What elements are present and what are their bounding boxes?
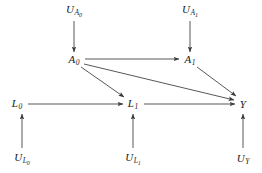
node-subscript: A0 [74, 8, 82, 17]
node-subscript: 1 [134, 102, 138, 111]
node-u-l1: UL1 [125, 152, 141, 166]
node-sub-subscript: 1 [138, 160, 141, 166]
node-u-a0: UA0 [66, 4, 82, 18]
node-subscript: L1 [134, 156, 141, 165]
node-subscript: Y [245, 157, 249, 166]
node-u-a1: UA1 [182, 4, 198, 18]
node-base-letter: U [125, 151, 133, 163]
node-base-letter: U [237, 152, 245, 164]
node-subscript: 1 [192, 58, 196, 67]
node-base-letter: U [66, 3, 74, 15]
node-base-letter: Y [240, 98, 246, 110]
edge-a0-y [84, 64, 234, 100]
node-subscript: L0 [23, 156, 30, 165]
node-subscript: 0 [18, 102, 22, 111]
node-subscript: A1 [190, 8, 198, 17]
causal-diagram-canvas: UA0UA1A0A1L0L1YUL0UL1UY [0, 0, 262, 173]
edge-a1-y [197, 67, 236, 96]
node-l0: L0 [12, 98, 22, 111]
node-sub-subscript: 1 [195, 12, 198, 18]
node-a1: A1 [184, 54, 195, 67]
edge-a0-l1 [81, 67, 124, 97]
node-base-letter: A [184, 53, 191, 65]
node-subscript: 0 [76, 58, 80, 67]
node-base-letter: A [68, 53, 75, 65]
node-sub-subscript: 0 [27, 160, 30, 166]
node-base-letter: U [14, 151, 22, 163]
node-base-letter: L [12, 97, 18, 109]
node-y: Y [240, 99, 246, 110]
edges-group [22, 21, 243, 148]
node-base-letter: U [182, 3, 190, 15]
node-a0: A0 [68, 54, 79, 67]
node-base-letter: L [128, 97, 134, 109]
node-sub-subscript: 0 [79, 12, 82, 18]
node-u-l0: UL0 [14, 152, 30, 166]
node-u-y: UY [237, 153, 250, 166]
node-l1: L1 [128, 98, 138, 111]
edge-layer [0, 0, 262, 173]
